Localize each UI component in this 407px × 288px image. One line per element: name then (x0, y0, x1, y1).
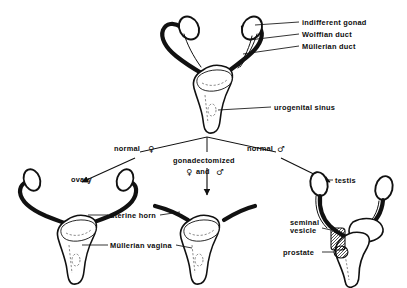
female-right-ovary (114, 167, 137, 193)
symbol-male-pathway: ♂ (277, 144, 285, 154)
label-uterine-horn: uterine horn (110, 211, 156, 220)
label-gonadectomized: gonadectomized (173, 156, 235, 165)
leader-urogenital-sinus (218, 107, 271, 110)
indifferent-stage-specimen (162, 13, 299, 133)
male-right-testis (373, 174, 395, 201)
anatomical-diagram-figure: indifferent gonad Wolffian duct Mülleria… (0, 0, 407, 288)
symbol-gonadectomized-female: ♀ (186, 167, 192, 177)
female-left-ovary (21, 167, 44, 193)
left-indifferent-gonad (175, 13, 203, 43)
label-seminal-vesicle-line2: vesicle (290, 226, 316, 235)
symbol-female-pathway: ♀ (148, 144, 154, 154)
label-indifferent-gonad: indifferent gonad (302, 18, 367, 27)
male-left-testis (308, 170, 330, 197)
label-normal-male: normal (247, 144, 273, 153)
label-mullerian-duct: Müllerian duct (302, 42, 356, 51)
label-testis: testis (335, 176, 356, 185)
label-wolffian-duct: Wolffian duct (302, 30, 352, 39)
normal-female-specimen (20, 167, 136, 284)
symbol-gonadectomized-male: ♂ (216, 167, 224, 177)
label-normal-female: normal (114, 144, 140, 153)
label-gonadectomized-and: and (196, 167, 210, 176)
normal-male-specimen (308, 170, 395, 287)
label-ovary: ovary (71, 175, 93, 184)
label-urogenital-sinus: urogenital sinus (274, 103, 335, 112)
gonadectomized-right-duct-stump (224, 206, 255, 220)
label-prostate: prostate (283, 248, 314, 257)
male-prostate (334, 246, 348, 258)
label-mullerian-vagina: Müllerian vagina (110, 241, 173, 250)
